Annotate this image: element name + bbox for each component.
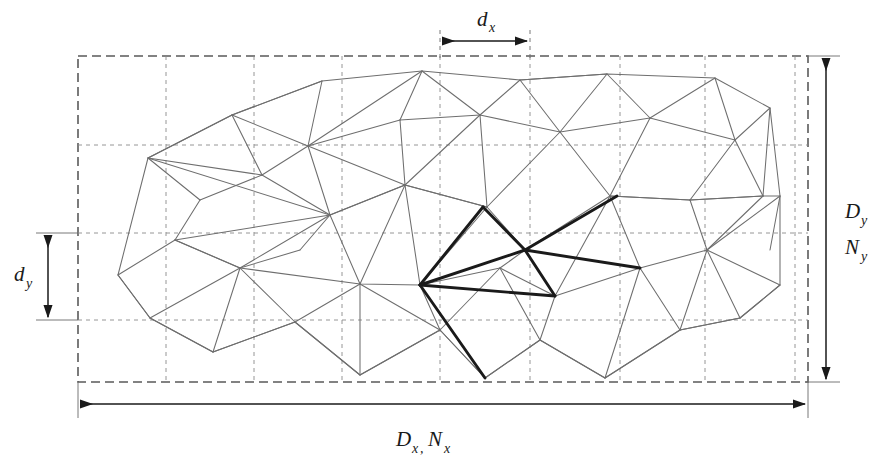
dy-label-sub: y	[24, 276, 33, 291]
mesh-diagram-svg: d x d y D y N y D x , N	[0, 0, 887, 470]
Dx-Nx-comma: ,	[420, 441, 424, 456]
Dy-label-base: D	[844, 199, 860, 223]
Dx-label-sub: x	[411, 441, 419, 456]
Ny-label-base: N	[844, 235, 860, 259]
dx-label-base: d	[477, 7, 488, 31]
dy-label-base: d	[14, 262, 25, 286]
Dx-label-base: D	[395, 427, 411, 451]
Nx-label-sub: x	[443, 441, 451, 456]
Nx-label-base: N	[427, 427, 443, 451]
figure-root: d x d y D y N y D x , N	[0, 0, 887, 470]
dx-label-sub: x	[488, 20, 496, 35]
figure-background	[0, 0, 887, 470]
Dy-label-sub: y	[859, 213, 868, 228]
Ny-label-sub: y	[859, 249, 868, 264]
